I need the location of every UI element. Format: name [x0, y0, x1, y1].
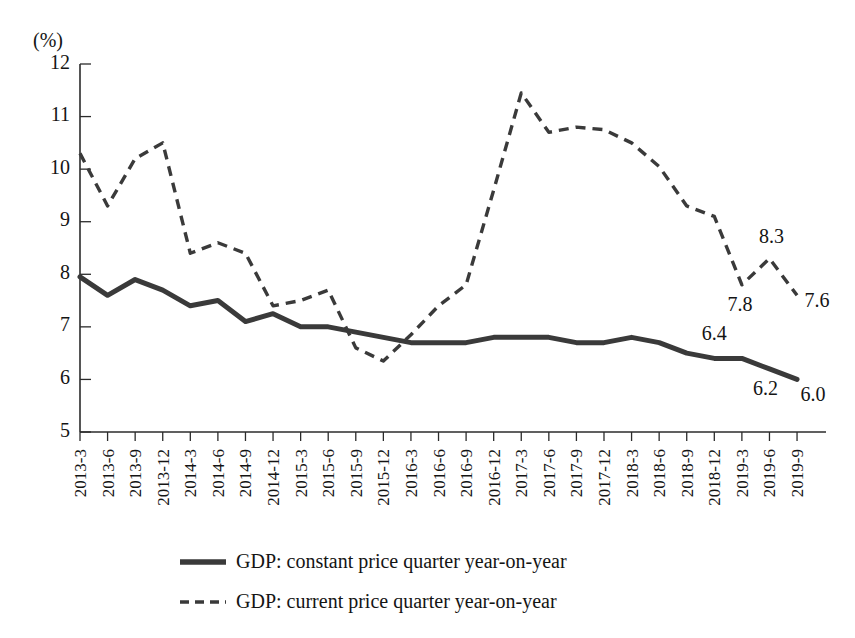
y-axis-tick-label: 11	[51, 103, 70, 125]
y-axis-tick-label: 10	[50, 156, 70, 178]
x-axis-tick-label: 2018-9	[678, 449, 697, 497]
y-axis-tick-label: 7	[60, 313, 70, 335]
data-point-label: 8.3	[759, 225, 784, 247]
data-point-label: 6.0	[801, 383, 826, 405]
x-axis-tick-label: 2014-3	[181, 449, 200, 497]
legend-label: GDP: constant price quarter year-on-year	[236, 550, 567, 573]
data-point-label: 7.6	[805, 289, 830, 311]
x-axis-tick-label: 2015-9	[347, 449, 366, 497]
data-point-label: 7.8	[727, 293, 752, 315]
x-axis-tick-label: 2014-6	[209, 449, 228, 497]
x-axis-tick-label: 2017-6	[540, 449, 559, 497]
legend-label: GDP: current price quarter year-on-year	[236, 590, 557, 613]
x-axis-tick-label: 2017-3	[512, 449, 531, 497]
x-axis-tick-label: 2015-12	[374, 449, 393, 506]
x-axis-tick-label: 2016-3	[402, 449, 421, 497]
chart-background	[0, 0, 855, 638]
x-axis-tick-label: 2019-9	[788, 449, 807, 497]
y-axis-tick-label: 9	[60, 208, 70, 230]
x-axis-tick-label: 2019-6	[760, 449, 779, 497]
x-axis-tick-label: 2019-3	[733, 449, 752, 497]
x-axis-tick-label: 2018-3	[623, 449, 642, 497]
x-axis-tick-label: 2016-12	[485, 449, 504, 506]
x-axis-tick-label: 2018-6	[650, 449, 669, 497]
data-point-label: 6.4	[702, 322, 727, 344]
y-axis-tick-label: 8	[60, 261, 70, 283]
x-axis-tick-label: 2018-12	[705, 449, 724, 506]
x-axis-tick-label: 2015-3	[292, 449, 311, 497]
y-axis-tick-label: 6	[60, 366, 70, 388]
x-axis-tick-label: 2014-9	[236, 449, 255, 497]
x-axis-tick-label: 2014-12	[264, 449, 283, 506]
y-axis-tick-label: 5	[60, 419, 70, 441]
x-axis-tick-label: 2013-12	[154, 449, 173, 506]
chart-container: (%) 56789101112 2013-32013-62013-92013-1…	[0, 0, 855, 638]
x-axis-tick-label: 2016-6	[430, 449, 449, 497]
y-axis-unit-label: (%)	[33, 29, 63, 52]
data-point-label: 6.2	[753, 377, 778, 399]
x-axis-tick-label: 2015-6	[319, 449, 338, 497]
x-axis-tick-label: 2013-3	[71, 449, 90, 497]
x-axis-tick-label: 2017-9	[567, 449, 586, 497]
gdp-growth-line-chart: (%) 56789101112 2013-32013-62013-92013-1…	[0, 0, 855, 638]
y-axis-tick-label: 12	[50, 51, 70, 73]
x-axis-tick-label: 2017-12	[595, 449, 614, 506]
x-axis-tick-label: 2013-9	[126, 449, 145, 497]
x-axis-tick-label: 2013-6	[99, 449, 118, 497]
x-axis-tick-label: 2016-9	[457, 449, 476, 497]
